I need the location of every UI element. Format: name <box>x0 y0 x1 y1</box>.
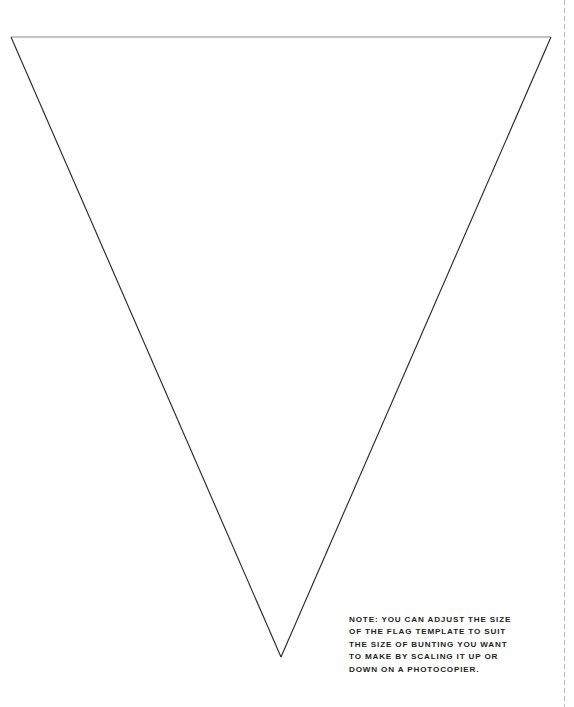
dashed-cut-line-icon <box>564 0 565 707</box>
flag-template-drawing <box>0 0 574 707</box>
flag-left-edge <box>11 37 281 657</box>
note-line-2: OF THE FLAG TEMPLATE TO SUIT <box>349 626 524 638</box>
flag-right-edge <box>281 37 551 657</box>
template-page: NOTE: YOU CAN ADJUST THE SIZE OF THE FLA… <box>0 0 574 707</box>
note-line-5: DOWN ON A PHOTOCOPIER. <box>349 664 524 676</box>
note-line-4: TO MAKE BY SCALING IT UP OR <box>349 651 524 663</box>
note-text-block: NOTE: YOU CAN ADJUST THE SIZE OF THE FLA… <box>349 614 524 676</box>
note-line-1: NOTE: YOU CAN ADJUST THE SIZE <box>349 614 524 626</box>
note-line-3: THE SIZE OF BUNTING YOU WANT <box>349 639 524 651</box>
